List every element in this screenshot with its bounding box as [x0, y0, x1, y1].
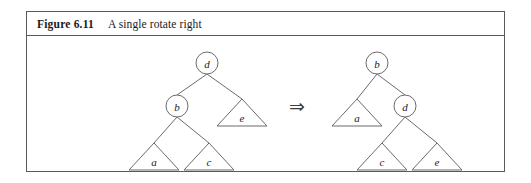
tree-node-label-b: b	[174, 101, 180, 113]
tree-node-label-d: d	[402, 101, 408, 113]
tree-edge	[177, 74, 207, 95]
tree-node-label-a: a	[354, 112, 360, 124]
tree-node-label-e: e	[435, 156, 440, 168]
figure-box: Figure 6.11 A single rotate right dbeac …	[26, 11, 505, 172]
tree-node-label-a: a	[151, 156, 157, 168]
before-rotation-nodes: dbeac	[129, 52, 267, 170]
tree-node-label-c: c	[380, 156, 385, 168]
tree-node-label-c: c	[207, 156, 212, 168]
tree-node-label-e: e	[240, 112, 245, 124]
tree-edge	[207, 74, 242, 99]
tree-edge	[382, 117, 405, 143]
double-right-arrow-icon: ⇒	[289, 95, 305, 117]
rotate-right-diagram: dbeac badce ⇒	[27, 36, 503, 171]
figure-caption-text: A single rotate right	[108, 18, 202, 30]
tree-edge	[154, 117, 177, 143]
tree-node-label-d: d	[204, 58, 210, 70]
figure-number-label: Figure 6.11	[37, 18, 94, 30]
figure-diagram-area: dbeac badce ⇒	[27, 36, 504, 171]
tree-edge	[377, 74, 405, 95]
tree-edge	[405, 117, 437, 143]
tree-edge	[357, 74, 377, 99]
after-rotation-nodes: badce	[332, 52, 462, 170]
tree-edge	[177, 117, 209, 143]
tree-node-label-b: b	[374, 58, 380, 70]
figure-caption-bar: Figure 6.11 A single rotate right	[27, 12, 504, 36]
